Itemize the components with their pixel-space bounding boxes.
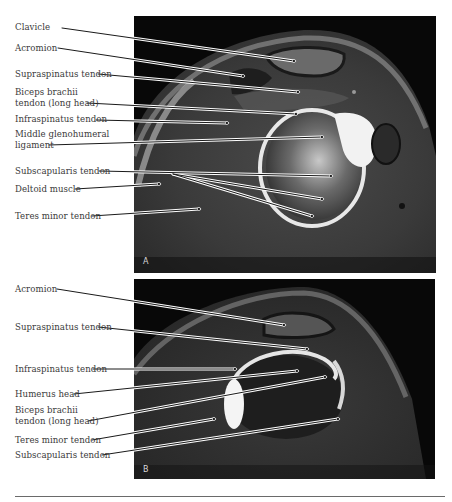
label-a-acromion: Acromion: [15, 43, 57, 54]
label-a-deltoid-muscle: Deltoid muscle: [15, 184, 81, 195]
bottom-rule: [15, 496, 445, 497]
label-b-teres-minor-tendon: Teres minor tendon: [15, 435, 101, 446]
label-b-supraspinatus-tendon: Supraspinatus tendon: [15, 322, 112, 333]
mri-image-b: [134, 279, 435, 479]
label-b-humerus-head: Humerus head: [15, 389, 80, 400]
label-b-infraspinatus-tendon: Infraspinatus tendon: [15, 364, 107, 375]
label-a-subscapularis-tendon: Subscapularis tendon: [15, 166, 110, 177]
label-b-biceps-line1: Biceps brachii: [15, 405, 78, 416]
panel-letter-b: B: [143, 465, 149, 474]
label-a-biceps-line2: tendon (long head): [15, 98, 99, 109]
label-a-supraspinatus-tendon: Supraspinatus tendon: [15, 69, 112, 80]
mri-panel-b: B: [134, 279, 435, 479]
mri-image-a: [134, 16, 436, 273]
mri-panel-a: A: [134, 16, 436, 273]
label-a-clavicle: Clavicle: [15, 22, 50, 33]
label-b-biceps-line2: tendon (long head): [15, 416, 99, 427]
label-a-teres-minor-tendon: Teres minor tendon: [15, 211, 101, 222]
label-b-subscapularis-tendon: Subscapularis tendon: [15, 450, 110, 461]
label-a-mgl-line2: ligament: [15, 140, 54, 151]
label-a-mgl-line1: Middle glenohumeral: [15, 129, 109, 140]
label-a-biceps-line1: Biceps brachii: [15, 87, 78, 98]
panel-letter-a: A: [143, 257, 148, 266]
label-b-acromion: Acromion: [15, 284, 57, 295]
label-a-infraspinatus-tendon: Infraspinatus tendon: [15, 114, 107, 125]
